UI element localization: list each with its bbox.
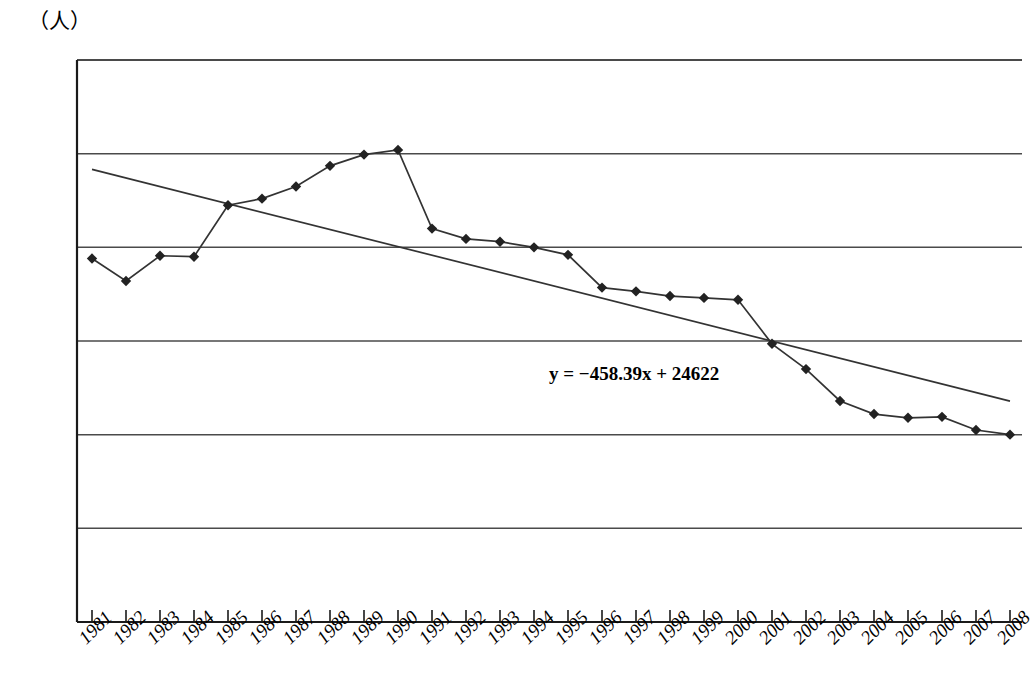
- x-axis-tick-label: 2007: [959, 607, 999, 647]
- x-axis-tick-label: 1981: [75, 607, 115, 647]
- x-axis-tick-label: 2005: [891, 607, 931, 647]
- x-axis-tick-label: 2006: [925, 607, 965, 647]
- x-axis-tick-label: 1994: [517, 607, 557, 647]
- x-axis-tick-label: 2000: [721, 607, 761, 647]
- x-axis-tick-label: 1992: [449, 607, 489, 647]
- x-axis-tick-label: 1984: [177, 607, 217, 647]
- x-axis-tick-label: 1985: [211, 607, 251, 647]
- x-axis-tick-label: 1997: [619, 607, 659, 647]
- x-axis-tick-label: 1990: [381, 607, 421, 647]
- x-axis-tick-label: 1995: [551, 607, 591, 647]
- x-axis-tick-label: 1987: [279, 607, 319, 647]
- trendline-equation-label: y = −458.39x + 24622: [549, 363, 719, 385]
- x-axis-tick-label: 1998: [653, 607, 693, 647]
- x-axis-tick-label: 2002: [789, 607, 829, 647]
- x-axis-tick-label: 1986: [245, 607, 285, 647]
- x-axis-tick-label: 2008: [993, 607, 1033, 647]
- x-axis-tick-label: 1993: [483, 607, 523, 647]
- x-axis-tick-label: 1988: [313, 607, 353, 647]
- x-axis-tick-label: 1991: [415, 607, 455, 647]
- x-axis-tick-label: 1996: [585, 607, 625, 647]
- x-axis-tick-label: 1983: [143, 607, 183, 647]
- x-axis-tick-label: 1982: [109, 607, 149, 647]
- x-axis-tick-label: 1989: [347, 607, 387, 647]
- x-axis-tick-label: 1999: [687, 607, 727, 647]
- x-axis-tick-label: 2004: [857, 607, 897, 647]
- x-axis-tick-label: 2001: [755, 607, 795, 647]
- x-axis-tick-label: 2003: [823, 607, 863, 647]
